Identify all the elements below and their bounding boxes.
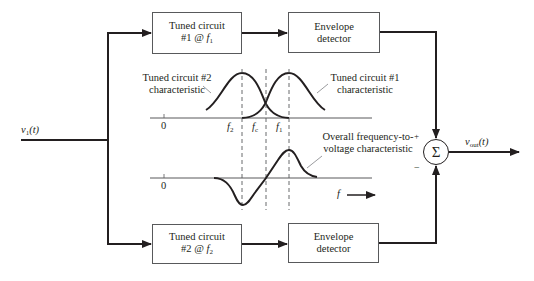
envelope-detector-1-line2: detector bbox=[314, 33, 354, 45]
tuned-circuit-1-number: #1 @ bbox=[181, 32, 206, 43]
top-plot-origin-label: 0 bbox=[161, 120, 166, 132]
input-signal-label: v1(t) bbox=[21, 124, 39, 139]
tuned-circuit-1-title: Tuned circuit bbox=[169, 20, 225, 32]
tuned-circuit-2-number: #2 @ bbox=[181, 243, 206, 254]
tick-f2: f2 bbox=[227, 121, 233, 136]
bottom-plot-origin-label: 0 bbox=[161, 180, 166, 192]
sigma-icon: Σ bbox=[432, 144, 441, 161]
tuned-circuit-1-characteristic-label: Tuned circuit #1 characteristic bbox=[323, 72, 407, 96]
summer-minus-sign: − bbox=[414, 162, 420, 174]
overall-leader bbox=[307, 156, 322, 168]
envelope-detector-1-block: Envelope detector bbox=[288, 12, 380, 53]
envelope-detector-2-block: Envelope detector bbox=[288, 223, 379, 263]
frequency-guides bbox=[242, 69, 289, 210]
summing-junction: Σ bbox=[423, 139, 449, 165]
overall-characteristic-label: Overall frequency-to- voltage characteri… bbox=[313, 131, 423, 155]
frequency-axis-label: f bbox=[337, 188, 340, 200]
tuned-circuit-2-block: Tuned circuit #2 @ f2 bbox=[152, 224, 242, 264]
diagram-canvas bbox=[0, 0, 534, 281]
tuned-circuit-1-block: Tuned circuit #1 @ f1 bbox=[152, 12, 242, 54]
envelope-detector-2-line1: Envelope bbox=[314, 231, 354, 243]
envelope-detector-2-line2: detector bbox=[314, 243, 354, 255]
envelope-detector-1-line1: Envelope bbox=[314, 21, 354, 33]
tuned-circuit-2-characteristic-label: Tuned circuit #2 characteristic bbox=[137, 72, 217, 96]
tick-f1: f1 bbox=[276, 121, 282, 136]
output-signal-label: vout(t) bbox=[465, 136, 489, 151]
bottom-plot bbox=[150, 150, 375, 205]
tick-fc: fc bbox=[252, 121, 258, 136]
tuned-circuit-2-title: Tuned circuit bbox=[169, 231, 225, 243]
